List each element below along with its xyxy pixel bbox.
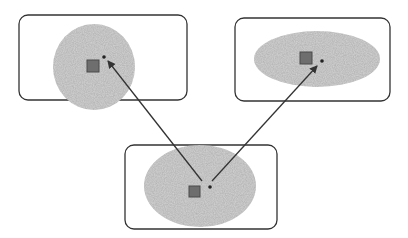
panel-top-right — [235, 18, 390, 101]
point-dot — [320, 59, 324, 63]
point-dot — [208, 185, 212, 189]
panel-bottom — [125, 145, 277, 229]
region-ellipse — [254, 31, 380, 87]
arrow-bottom-to-top-right — [212, 66, 317, 181]
marker-square — [87, 60, 99, 72]
point-dot — [102, 55, 106, 59]
marker-square — [300, 52, 312, 64]
panel-top-left — [19, 15, 187, 110]
marker-square — [189, 186, 200, 197]
diagram-canvas — [0, 0, 408, 238]
